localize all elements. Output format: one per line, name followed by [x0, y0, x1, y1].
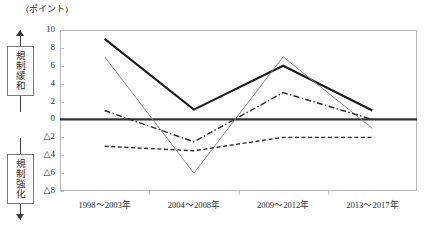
series-dashed — [105, 137, 373, 150]
series-lines-layer — [0, 0, 424, 244]
series-dash-dot — [105, 93, 373, 142]
series-thick-solid — [105, 39, 373, 111]
chart-root: (ポイント) 規制緩和 規制強化 1086420△2△4△6△8 1998〜20… — [0, 0, 424, 244]
series-thin-solid — [105, 57, 373, 173]
